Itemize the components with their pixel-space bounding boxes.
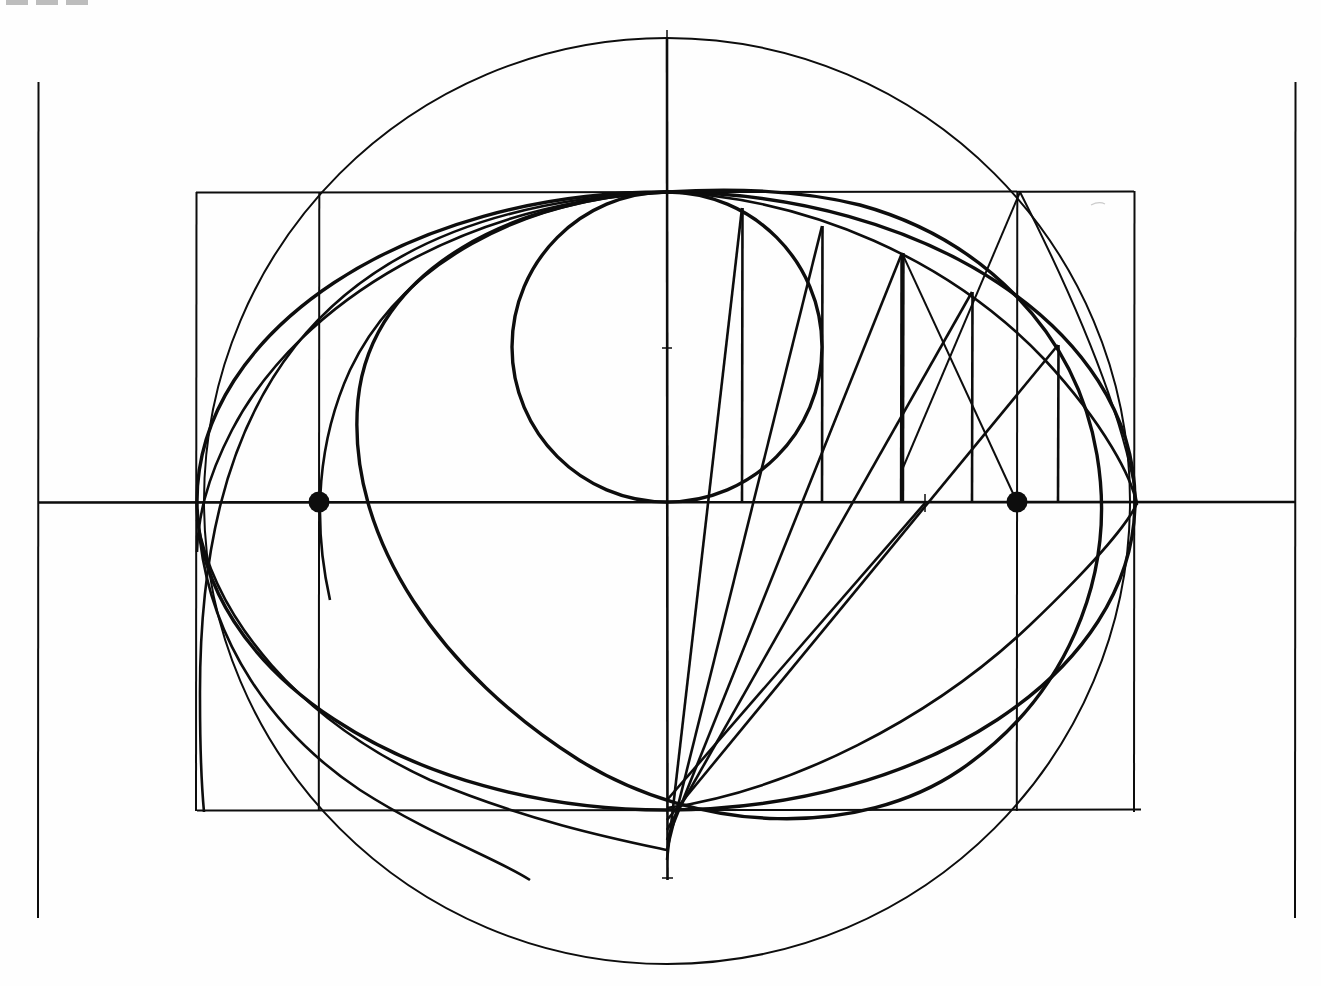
- register-mark-2: [36, 0, 58, 5]
- ordinate-line-5: [1058, 345, 1059, 502]
- chords-group: [902, 192, 1020, 502]
- minor-axis-line: [667, 38, 668, 880]
- ray-to-ordinate-2: [667, 226, 822, 850]
- right-sweep-arc-lower: [667, 503, 1137, 808]
- register-mark-3: [66, 0, 88, 5]
- construction-arc-outer-left: [197, 192, 667, 552]
- construction-arc-mid-left: [320, 192, 667, 600]
- focus-left-point: [309, 492, 330, 513]
- lower-left-curves-group: [197, 520, 667, 880]
- ray-pencil-group: [667, 208, 1058, 860]
- diagram-canvas: [0, 0, 1321, 986]
- chord-upper-right: [902, 192, 1020, 470]
- paper-smudge-group: [1091, 203, 1105, 205]
- paper-smudge: [1091, 203, 1105, 205]
- ellipse-construction-figure: [0, 0, 1321, 986]
- ordinate-line-4: [972, 292, 973, 502]
- register-marks-group: [6, 0, 88, 5]
- lower-left-curve-a: [197, 520, 667, 850]
- ordinate-line-3: [902, 253, 903, 502]
- ray-to-axis-tick: [667, 503, 925, 800]
- register-mark-1: [6, 0, 28, 5]
- ray-to-ordinate-5: [667, 345, 1058, 820]
- right-sweep-arc-short: [1020, 192, 1137, 503]
- ordinate-line-2: [822, 226, 823, 502]
- focus-right-point: [1007, 492, 1028, 513]
- principal-axes-group: [38, 30, 1295, 880]
- right-directrix-line: [1295, 82, 1296, 918]
- left-directrix-line: [38, 82, 39, 918]
- lower-left-curve-b: [200, 540, 530, 880]
- ordinate-line-1: [742, 208, 743, 502]
